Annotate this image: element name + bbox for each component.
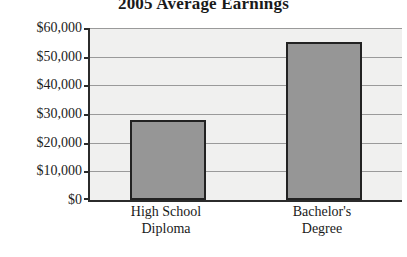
y-tick-label-0: $0 bbox=[68, 192, 82, 208]
y-tick-50000 bbox=[84, 57, 90, 59]
y-tick-0 bbox=[84, 198, 90, 200]
y-tick-60000 bbox=[84, 28, 90, 30]
gridline-60000 bbox=[90, 28, 402, 29]
bar-bachelors-degree bbox=[286, 42, 362, 200]
x-tick-label-high-school-diploma: High School Diploma bbox=[88, 203, 244, 237]
y-tick-label-60000: $60,000 bbox=[37, 20, 83, 36]
y-tick-label-40000: $40,000 bbox=[37, 77, 83, 93]
x-label-line-2: Diploma bbox=[88, 220, 244, 237]
plot-area bbox=[88, 28, 402, 202]
y-tick-30000 bbox=[84, 114, 90, 116]
x-label-line-1: Bachelor's bbox=[244, 203, 400, 220]
y-tick-10000 bbox=[84, 171, 90, 173]
x-tick-label-bachelors-degree: Bachelor's Degree bbox=[244, 203, 400, 237]
y-tick-label-20000: $20,000 bbox=[37, 135, 83, 151]
chart-title: 2005 Average Earnings bbox=[0, 0, 407, 14]
x-axis-labels: High School Diploma Bachelor's Degree bbox=[88, 203, 400, 253]
y-tick-40000 bbox=[84, 85, 90, 87]
y-tick-label-50000: $50,000 bbox=[37, 49, 83, 65]
bar-chart: 2005 Average Earnings $60,000 $50,000 $4… bbox=[0, 0, 407, 257]
y-tick-label-30000: $30,000 bbox=[37, 106, 83, 122]
y-tick-20000 bbox=[84, 143, 90, 145]
x-label-line-2: Degree bbox=[244, 220, 400, 237]
y-tick-label-10000: $10,000 bbox=[37, 163, 83, 179]
y-axis-labels: $60,000 $50,000 $40,000 $30,000 $20,000 … bbox=[0, 28, 86, 200]
bar-high-school-diploma bbox=[130, 120, 206, 200]
x-label-line-1: High School bbox=[88, 203, 244, 220]
